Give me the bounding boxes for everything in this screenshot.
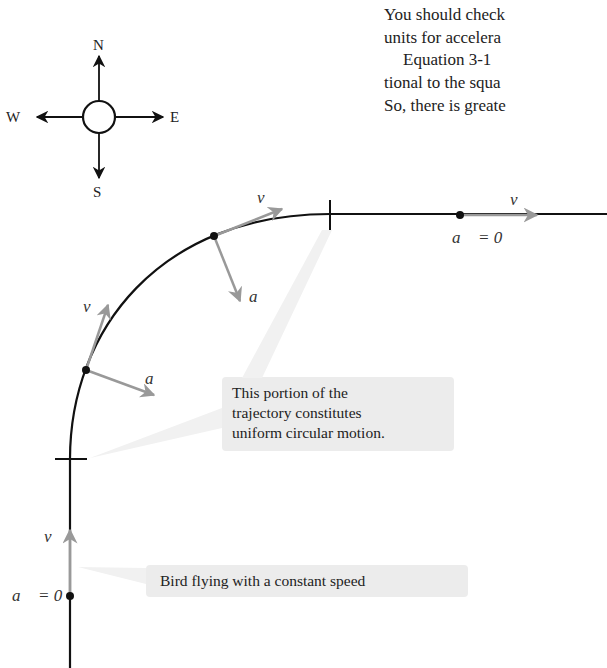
point-arc-upper: v⃗ a⃗ [210, 188, 282, 306]
point-bottom: v⃗ a⃗ = 0 [12, 527, 74, 605]
trajectory-diagram: N S E W v⃗ a⃗ = 0 v⃗ a⃗ v⃗ a⃗ [0, 0, 607, 668]
bird-trajectory [55, 200, 607, 668]
accel-label-upper: a⃗ [249, 287, 271, 306]
accel-zero-label-top: a⃗ = 0 [452, 228, 503, 247]
compass-north-label: N [93, 37, 104, 53]
compass-south-label: S [93, 184, 101, 200]
velocity-label-top: v⃗ [510, 190, 531, 209]
callout-pointer-left [90, 408, 222, 458]
accel-zero-label-bottom: a⃗ = 0 [12, 586, 63, 605]
velocity-label-bottom: v⃗ [44, 527, 65, 546]
compass-west-label: W [6, 109, 21, 125]
compass-rose: N S E W [6, 37, 179, 200]
point-arc-lower: v⃗ a⃗ [82, 297, 167, 395]
velocity-label-lower: v⃗ [83, 297, 104, 316]
compass-east-label: E [170, 109, 179, 125]
velocity-label-upper: v⃗ [257, 188, 278, 207]
accel-label-lower: a⃗ [145, 369, 167, 388]
point-top: v⃗ a⃗ = 0 [452, 190, 537, 247]
callout-pointer-bottom [78, 567, 146, 584]
